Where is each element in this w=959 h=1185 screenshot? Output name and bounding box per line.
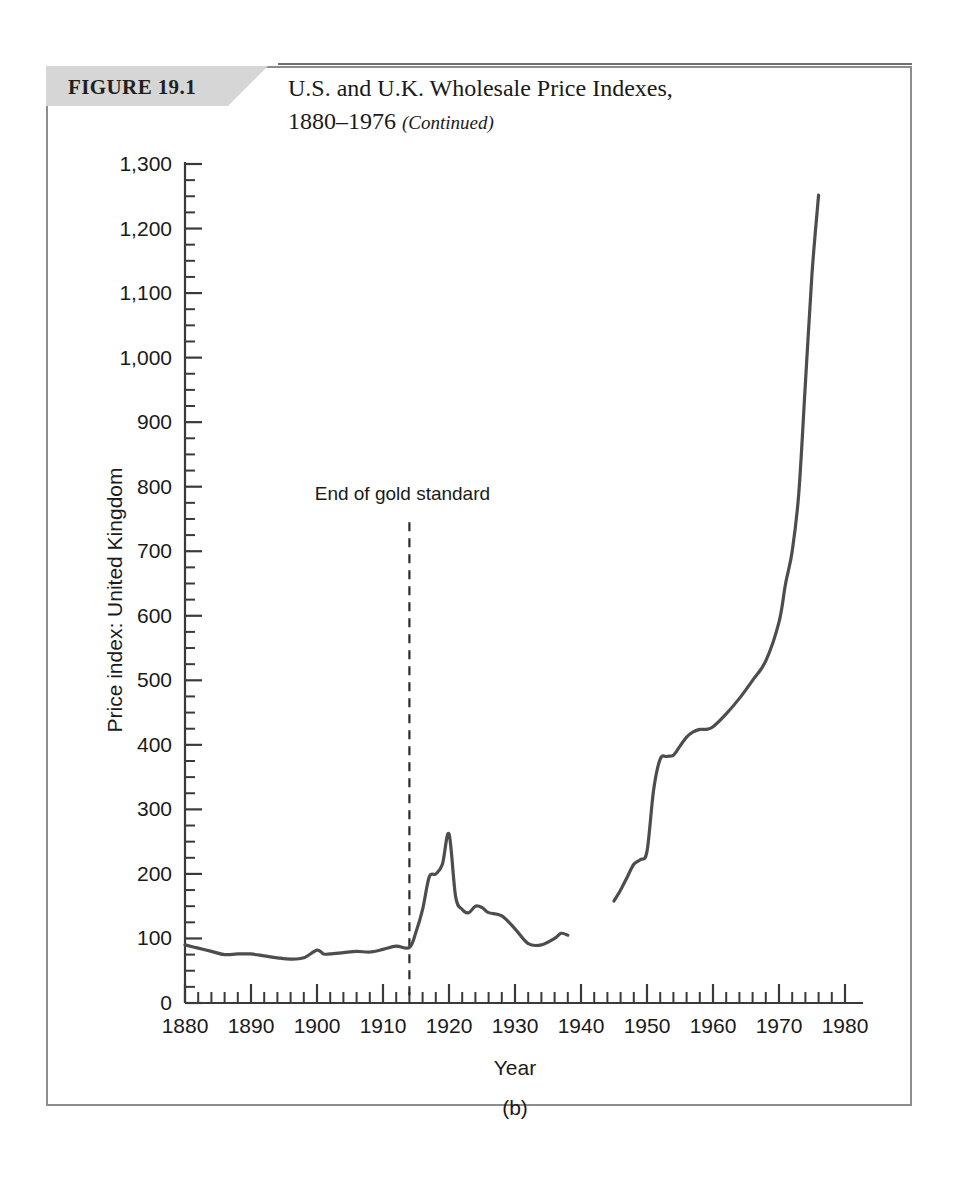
figure-title-line-1: U.S. and U.K. Wholesale Price Indexes, — [288, 75, 673, 101]
figure-title-line-2: 1880–1976 — [288, 108, 402, 134]
figure-number-label: FIGURE 19.1 — [68, 75, 196, 100]
figure-title-continued-note: (Continued) — [402, 112, 494, 133]
figure-header: FIGURE 19.1 U.S. and U.K. Wholesale Pric… — [46, 56, 912, 146]
figure-frame — [46, 66, 912, 1106]
title-divider-rule — [278, 63, 912, 65]
figure-title: U.S. and U.K. Wholesale Price Indexes, 1… — [288, 72, 912, 139]
